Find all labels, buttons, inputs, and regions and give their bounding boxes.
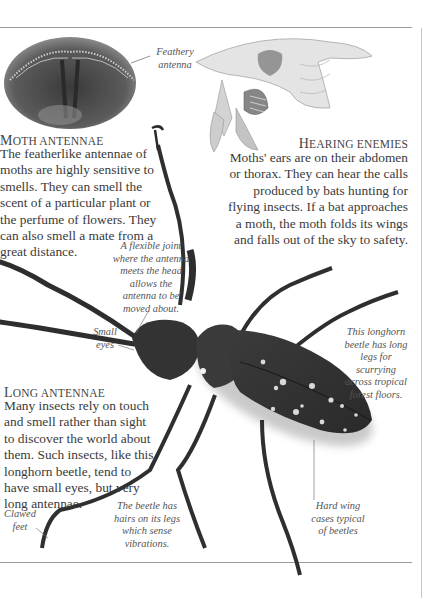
caption-long-legs: This longhorn beetle has long legs for s… [344, 326, 408, 402]
caption-hard-wing-cases: Hard wing cases typical of beetles [310, 500, 366, 538]
caption-small-eyes: Small eyes [88, 326, 122, 351]
caption-leg-hairs: The beetle has hairs on its legs which s… [112, 500, 182, 550]
body-hearing-enemies: Moths' ears are on their abdomen or thor… [228, 150, 408, 248]
bat-and-moth-drawing [196, 39, 372, 152]
caption-clawed-feet: Clawed feet [2, 508, 38, 533]
body-long-antennae: Many insects rely on touch and smell rat… [4, 398, 154, 513]
caption-flexible-joint: A flexible joint where the antenna meets… [112, 240, 190, 316]
caption-feathery-antenna: Feathery antenna [150, 46, 200, 71]
moth-head-photo [4, 37, 136, 129]
